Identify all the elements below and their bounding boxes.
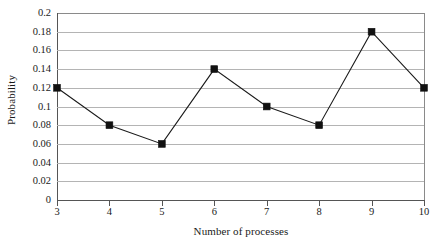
y-axis-tick-label: 0.2 [38, 8, 51, 19]
gridline-horizontal [57, 32, 424, 33]
x-axis-tick-label: 6 [212, 207, 217, 218]
x-axis-tick-label: 10 [419, 207, 430, 218]
y-axis-tick-label: 0.1 [38, 101, 51, 112]
x-axis-tick-label: 8 [317, 207, 322, 218]
gridline-horizontal [57, 69, 424, 70]
x-axis-title-text: Number of processes [194, 225, 289, 237]
y-axis-title-text: Probability [5, 75, 17, 125]
x-axis-tick-label: 7 [264, 207, 269, 218]
y-axis-tick-label: 0.12 [33, 83, 51, 94]
x-axis-line [57, 200, 425, 201]
x-axis-tick-label: 9 [369, 207, 374, 218]
y-axis-tick-label: 0.04 [33, 157, 51, 168]
gridline-horizontal [57, 181, 424, 182]
y-axis-tick-labels: 00.020.040.060.080.10.120.140.160.180.2 [20, 0, 54, 246]
y-axis-tick-label: 0.18 [33, 26, 51, 37]
y-axis-title: Probability [0, 0, 22, 200]
y-axis-tick-label: 0.06 [33, 139, 51, 150]
gridline-horizontal [57, 50, 424, 51]
gridline-horizontal [57, 125, 424, 126]
x-axis-tick-label: 4 [107, 207, 112, 218]
gridline-horizontal [57, 107, 424, 108]
plot-area [57, 13, 424, 200]
gridline-horizontal [57, 144, 424, 145]
y-axis-tick-label: 0.02 [33, 176, 51, 187]
chart-figure: Probability 00.020.040.060.080.10.120.14… [0, 0, 444, 246]
y-axis-tick-label: 0.14 [33, 64, 51, 75]
plot-border-right [424, 13, 425, 201]
x-axis-tick-label: 5 [159, 207, 164, 218]
y-axis-tick-label: 0.08 [33, 120, 51, 131]
x-axis-title: Number of processes [57, 225, 425, 237]
gridline-horizontal [57, 88, 424, 89]
x-axis-tick-label: 3 [54, 207, 59, 218]
gridline-horizontal [57, 163, 424, 164]
y-axis-tick-label: 0.16 [33, 45, 51, 56]
y-axis-tick-label: 0 [46, 195, 51, 206]
